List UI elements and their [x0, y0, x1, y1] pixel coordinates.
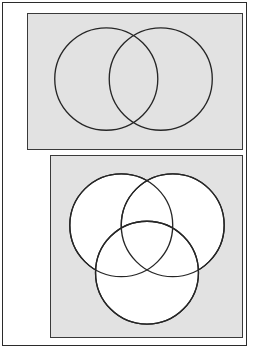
two-circle-venn-svg — [28, 14, 242, 149]
set-b-circle — [109, 28, 212, 130]
set-a-circle — [55, 28, 158, 130]
two-circle-venn-panel — [27, 13, 243, 150]
page-frame — [2, 2, 247, 346]
three-circle-venn-svg — [51, 156, 242, 337]
figure-page — [0, 0, 262, 360]
three-circle-venn-panel — [50, 155, 243, 338]
